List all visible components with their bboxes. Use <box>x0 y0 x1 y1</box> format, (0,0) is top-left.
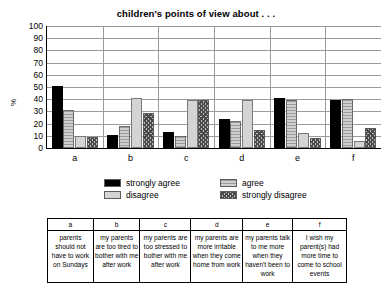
y-axis-tick-label: 0 <box>38 144 43 153</box>
y-axis-tick-label: 60 <box>34 71 43 80</box>
table-header-cell: c <box>140 219 191 231</box>
bar-group-e <box>270 26 326 148</box>
bar-e-agree <box>286 100 297 148</box>
bar-d-strongly-disagree <box>254 130 265 148</box>
legend-row: disagree strongly disagree <box>104 189 334 201</box>
bar-group-a <box>47 26 103 148</box>
table-cell: my parents are more irritable when they … <box>191 231 243 283</box>
y-axis-tick-label: 70 <box>34 58 43 67</box>
bar-a-strongly-agree <box>52 86 63 148</box>
y-axis-tick-label: 90 <box>34 34 43 43</box>
table-header-cell: b <box>93 219 140 231</box>
table-cell: I wish my parent(s) had more time to com… <box>293 231 347 283</box>
legend-item-disagree: disagree <box>104 190 220 200</box>
bar-b-agree <box>119 126 130 148</box>
y-axis-tick-label: 80 <box>34 46 43 55</box>
bar-b-disagree <box>131 98 142 148</box>
light-gray-swatch-icon <box>104 191 121 199</box>
hatched-gray-swatch-icon <box>220 179 237 187</box>
y-axis-tick-label: 40 <box>34 95 43 104</box>
category-description-table: a b c d e f parents should not have to w… <box>47 218 347 283</box>
y-axis-tick-label: 50 <box>34 83 43 92</box>
x-axis-tick-label-f: f <box>330 153 376 163</box>
legend-item-agree: agree <box>220 178 264 188</box>
page-title: children's points of view about . . . <box>0 8 392 19</box>
checkered-swatch-icon <box>220 191 237 199</box>
bar-group-b <box>103 26 159 148</box>
x-axis-tick-label-b: b <box>108 153 154 163</box>
table-header-cell: a <box>48 219 94 231</box>
bar-c-disagree <box>187 100 198 148</box>
bar-d-agree <box>230 121 241 148</box>
bar-f-agree <box>342 99 353 148</box>
y-axis-label: % <box>9 99 18 106</box>
table-cell: my parents are too tired to bother with … <box>93 231 140 283</box>
bar-group-d <box>214 26 270 148</box>
bar-d-disagree <box>242 100 253 148</box>
x-axis-tick-label-e: e <box>275 153 321 163</box>
chart-legend: strongly agree agree disagree strongly d… <box>104 177 334 201</box>
bar-e-strongly-disagree <box>310 138 321 148</box>
table-row: parents should not have to work on Sunda… <box>48 231 347 283</box>
bar-d-strongly-agree <box>219 119 230 148</box>
plot-area: 0102030405060708090100abcdef <box>46 26 381 149</box>
bar-c-strongly-disagree <box>198 100 209 148</box>
legend-item-strongly-disagree: strongly disagree <box>220 190 307 200</box>
bar-c-strongly-agree <box>163 132 174 148</box>
legend-label: disagree <box>126 190 159 200</box>
y-axis-tick-label: 10 <box>34 132 43 141</box>
table-cell: parents should not have to work on Sunda… <box>48 231 94 283</box>
bar-f-disagree <box>354 141 365 148</box>
bar-a-disagree <box>75 136 86 148</box>
legend-item-strongly-agree: strongly agree <box>104 178 220 188</box>
table-header-cell: e <box>243 219 293 231</box>
table-cell: my parents are too stressed to bother wi… <box>140 231 191 283</box>
x-axis-tick-label-d: d <box>219 153 265 163</box>
legend-label: agree <box>242 178 264 188</box>
table-header-row: a b c d e f <box>48 219 347 231</box>
bar-e-strongly-agree <box>274 98 285 148</box>
bar-c-agree <box>175 136 186 148</box>
y-axis-tick-label: 30 <box>34 107 43 116</box>
bar-a-strongly-disagree <box>87 137 98 148</box>
bar-b-strongly-disagree <box>143 113 154 148</box>
legend-label: strongly disagree <box>242 190 307 200</box>
bar-a-agree <box>63 110 74 148</box>
bar-b-strongly-agree <box>107 135 118 148</box>
x-axis-tick-label-a: a <box>52 153 98 163</box>
table-cell: my parents talk to me more when they hav… <box>243 231 293 283</box>
legend-label: strongly agree <box>126 178 180 188</box>
legend-row: strongly agree agree <box>104 177 334 189</box>
bar-e-disagree <box>298 133 309 148</box>
table-header-cell: d <box>191 219 243 231</box>
y-axis-tick-label: 20 <box>34 119 43 128</box>
bar-f-strongly-disagree <box>365 128 376 148</box>
bar-chart: % 0102030405060708090100abcdef <box>0 22 392 170</box>
bar-group-c <box>158 26 214 148</box>
y-axis-tick-label: 100 <box>29 22 43 31</box>
x-axis-tick-label-c: c <box>163 153 209 163</box>
bar-group-f <box>325 26 381 148</box>
bar-f-strongly-agree <box>330 100 341 148</box>
table-header-cell: f <box>293 219 347 231</box>
black-swatch-icon <box>104 179 121 187</box>
